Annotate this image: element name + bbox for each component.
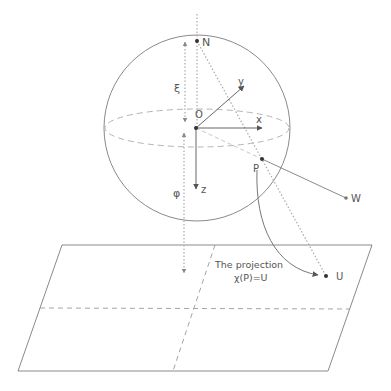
- point-o: [194, 126, 198, 130]
- label-phi: φ: [173, 187, 180, 200]
- stereographic-projection-diagram: N O x y z ξ φ P W U The projection χ(P)=…: [0, 0, 391, 391]
- label-w: W: [351, 193, 361, 204]
- point-p: [260, 157, 264, 161]
- y-axis-arrow: [196, 86, 244, 128]
- label-xi: ξ: [174, 82, 180, 95]
- label-u: U: [336, 271, 343, 282]
- label-p: P: [253, 163, 259, 174]
- label-z: z: [201, 184, 206, 195]
- label-x: x: [256, 114, 262, 125]
- projection-caption-line1: The projection: [214, 259, 283, 270]
- label-o: O: [195, 109, 203, 120]
- point-u: [324, 274, 328, 278]
- label-y: y: [238, 76, 244, 87]
- point-w: [344, 196, 348, 200]
- plane-horizontal-dashed-axis: [40, 308, 350, 309]
- label-n: N: [202, 36, 210, 49]
- projection-caption-line2: χ(P)=U: [234, 272, 268, 283]
- point-n: [195, 39, 199, 43]
